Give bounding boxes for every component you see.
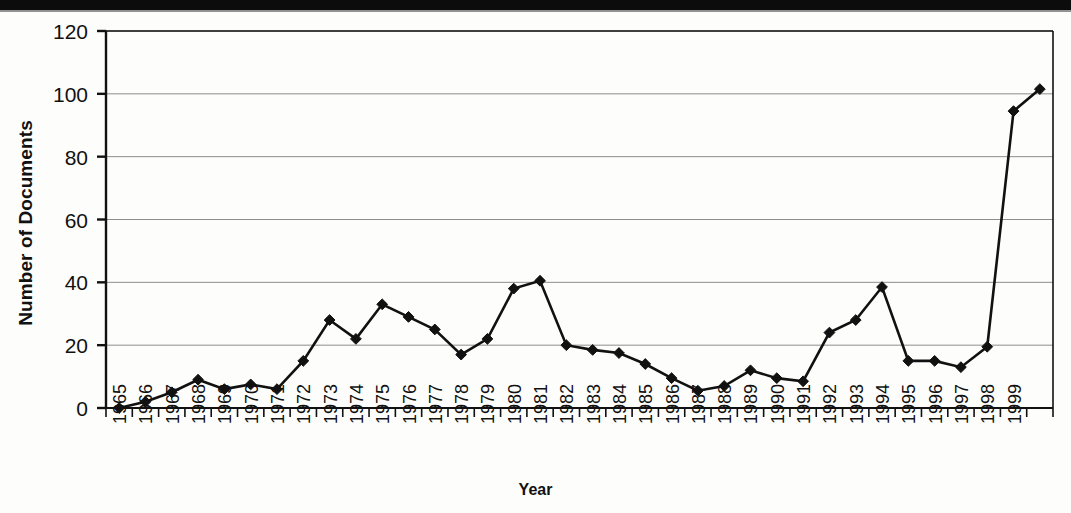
x-tick-label: 1978 (452, 384, 472, 424)
x-tick-label: 1994 (873, 384, 893, 424)
x-tick-label: 1990 (768, 384, 788, 424)
data-point-marker (535, 275, 546, 286)
data-point-marker (193, 374, 204, 385)
x-tick-label: 1968 (189, 384, 209, 424)
data-point-marker (929, 355, 940, 366)
x-tick-label: 1970 (242, 384, 262, 424)
data-point-marker (903, 355, 914, 366)
x-tick-label: 1985 (636, 384, 656, 424)
data-point-marker (745, 365, 756, 376)
x-tick-label: 1998 (978, 384, 998, 424)
x-tick-label: 1997 (952, 384, 972, 424)
data-point-marker (666, 373, 677, 384)
gridlines-group (106, 31, 1053, 345)
x-tick-label: 1991 (794, 384, 814, 424)
x-tick-label: 1995 (899, 384, 919, 424)
data-point-marker (640, 359, 651, 370)
x-tick-label: 1992 (820, 384, 840, 424)
y-tick-label: 20 (65, 334, 88, 357)
x-tick-label: 1981 (531, 384, 551, 424)
data-point-marker (587, 344, 598, 355)
y-tick-label: 40 (65, 271, 88, 294)
data-point-marker (771, 373, 782, 384)
x-tick-label: 1983 (584, 384, 604, 424)
x-tick-label: 1976 (400, 384, 420, 424)
x-tick-label: 1996 (926, 384, 946, 424)
data-point-marker (614, 348, 625, 359)
y-tick-label: 100 (53, 83, 88, 106)
x-tick-label: 1979 (478, 384, 498, 424)
data-point-marker (561, 340, 572, 351)
x-tick-label: 1993 (847, 384, 867, 424)
data-point-marker (824, 327, 835, 338)
y-tick-label: 120 (53, 20, 88, 43)
y-tick-label: 80 (65, 146, 88, 169)
data-point-marker (508, 283, 519, 294)
x-tick-label: 1977 (426, 384, 446, 424)
x-tick-label: 1972 (294, 384, 314, 424)
x-tick-labels-group: 1965196619671968196919701971197219731974… (110, 384, 1024, 424)
y-tick-label: 60 (65, 209, 88, 232)
x-tick-label: 1982 (557, 384, 577, 424)
x-tick-label: 1984 (610, 384, 630, 424)
chart-figure: Number of Documents Year 020406080100120… (0, 0, 1071, 513)
x-tick-label: 1989 (741, 384, 761, 424)
x-tick-label: 1974 (347, 384, 367, 424)
line-chart-plot: 020406080100120 196519661967196819691970… (0, 0, 1071, 513)
x-tick-label: 1975 (373, 384, 393, 424)
y-tick-marks-group (97, 31, 106, 408)
x-tick-label: 1973 (321, 384, 341, 424)
data-point-marker (482, 333, 493, 344)
x-tick-label: 1999 (1005, 384, 1025, 424)
y-tick-labels-group: 020406080100120 (53, 20, 88, 420)
y-tick-label: 0 (76, 397, 88, 420)
data-point-marker (403, 311, 414, 322)
x-tick-label: 1986 (663, 384, 683, 424)
data-series-line (119, 89, 1040, 408)
data-series-markers (114, 84, 1046, 414)
x-tick-label: 1980 (505, 384, 525, 424)
